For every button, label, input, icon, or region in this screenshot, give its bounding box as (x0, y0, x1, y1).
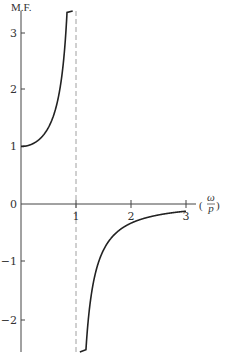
magnification-factor-chart: 3 2 1 0 −1 −2 1 2 3 M.F. ( ω p ) (0, 0, 232, 354)
svg-text:p: p (207, 202, 214, 214)
y-tick-label: −1 (1, 255, 17, 268)
x-tick-label: 2 (128, 210, 135, 223)
y-tick-label: 1 (10, 140, 17, 153)
curve-above-resonance (80, 211, 186, 352)
svg-text:(: ( (199, 199, 203, 212)
y-axis-title: M.F. (11, 1, 32, 13)
x-axis-title: ( ω p ) (199, 191, 220, 214)
curve-below-resonance (21, 11, 73, 147)
y-tick-label: 0 (10, 198, 17, 211)
y-tick-label: 2 (10, 83, 17, 96)
y-tick-label: −2 (1, 314, 17, 327)
y-ticks (21, 33, 25, 320)
x-tick-label: 1 (73, 210, 80, 223)
svg-text:): ) (216, 199, 220, 212)
y-tick-label: 3 (10, 27, 17, 40)
